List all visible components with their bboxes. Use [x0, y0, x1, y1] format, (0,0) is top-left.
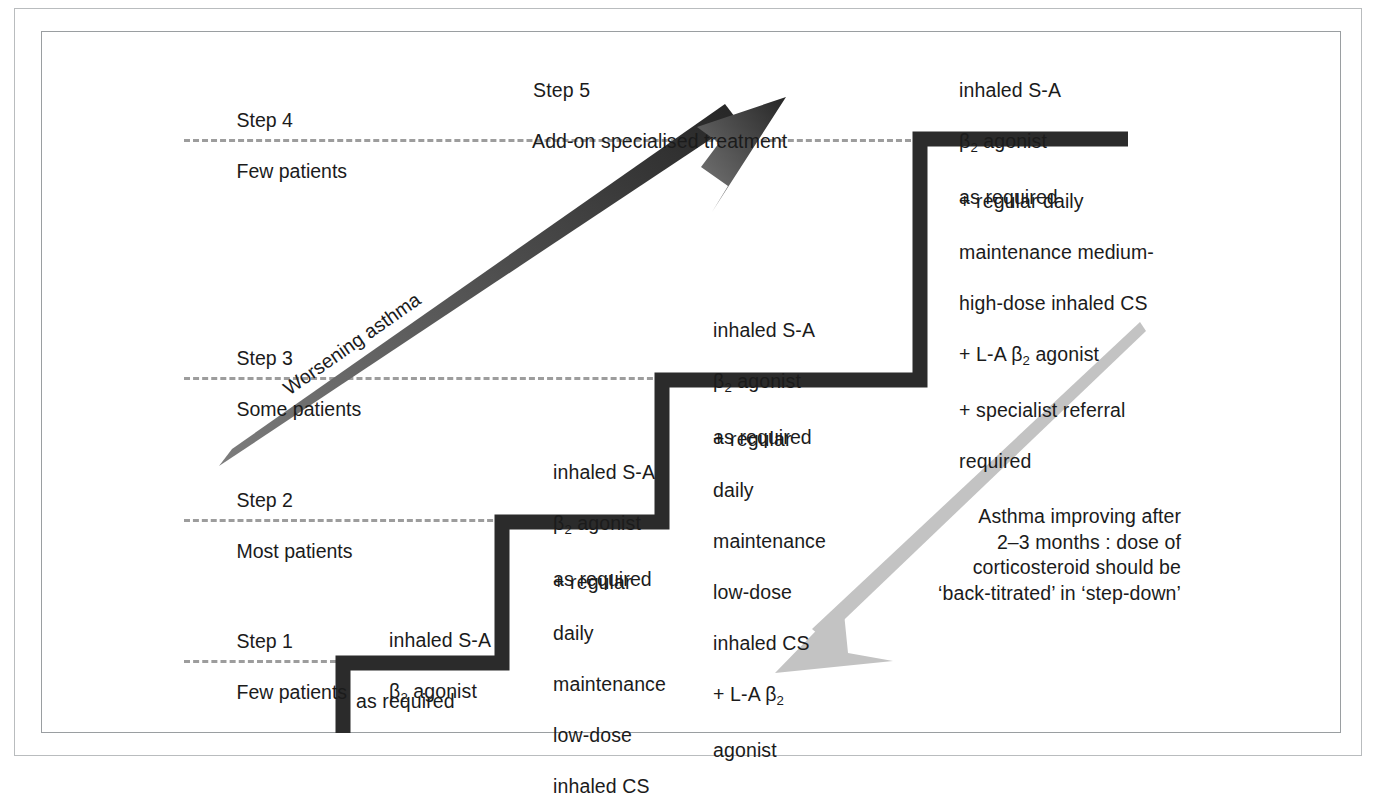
beta-glyph: β [959, 130, 970, 152]
step1-patients: Few patients [237, 681, 348, 703]
step3-addon-line-0: + regular [713, 428, 791, 450]
beta-subscript: 2 [564, 521, 571, 536]
step5-description: Add-on specialised treatment [532, 130, 787, 152]
step3-addon-line-2: maintenance [713, 530, 826, 552]
beta-subscript: 2 [724, 379, 731, 394]
step4-addon-text: + regular daily maintenance medium- high… [926, 163, 1154, 500]
step3-addon-line-1: daily [713, 479, 754, 501]
step4-addon-line-0: + regular daily [959, 190, 1084, 212]
step3-addon-la-agonist: agonist [713, 739, 777, 761]
agonist-word: agonist [572, 512, 641, 534]
beta-glyph: β [1011, 343, 1022, 365]
beta-glyph: β [713, 370, 724, 392]
improving-caption-line-3: ‘back-titrated’ in ‘step-down’ [938, 582, 1181, 604]
step3-patients: Some patients [237, 398, 362, 420]
step2-label: Step 2 Most patients [204, 462, 353, 590]
step2-addon-line-1: daily [553, 622, 594, 644]
step2-patients: Most patients [237, 540, 353, 562]
improving-arrow-caption: Asthma improving after 2–3 months : dose… [836, 504, 1181, 606]
beta-glyph: β [765, 683, 776, 705]
step1-name: Step 1 [237, 630, 293, 652]
step4-reliever-line1: inhaled S-A [959, 79, 1061, 101]
step2-addon-text: + regular daily maintenance low-dose inh… [520, 544, 666, 797]
step2-addon-line-2: maintenance [553, 673, 666, 695]
agonist-word: agonist [732, 370, 801, 392]
improving-caption-line-1: 2–3 months : dose of [997, 531, 1181, 553]
step1-reliever-line1: inhaled S-A [389, 629, 491, 651]
step3-addon-line-3: low-dose [713, 581, 792, 603]
step1-as-required: as required [356, 689, 455, 715]
step4-label: Step 4 Few patients [204, 82, 347, 210]
step2-beta2-agonist: β2 agonist [553, 512, 641, 534]
step2-name: Step 2 [237, 489, 293, 511]
beta-subscript: 2 [1023, 352, 1030, 367]
improving-caption-line-0: Asthma improving after [978, 505, 1181, 527]
step1-label: Step 1 Few patients [204, 603, 347, 731]
beta-subscript: 2 [970, 139, 977, 154]
step4-name: Step 4 [237, 109, 293, 131]
step3-label: Step 3 Some patients [204, 320, 361, 448]
agonist-word: agonist [1030, 343, 1099, 365]
step2-reliever-line1: inhaled S-A [553, 461, 655, 483]
improving-caption-line-2: corticosteroid should be [973, 556, 1181, 578]
step3-addon-la-beta2: + L-A β2 [713, 683, 784, 705]
agonist-word: agonist [978, 130, 1047, 152]
la-prefix: + L-A [959, 343, 1011, 365]
step4-addon-la-beta2: + L-A β2 agonist [959, 343, 1099, 365]
beta-glyph: β [553, 512, 564, 534]
step4-addon-line-1: maintenance medium- [959, 241, 1154, 263]
step5-name: Step 5 [533, 79, 590, 101]
step5-heading: Step 5 Add-on specialised treatment [500, 52, 787, 180]
step4-addon-specialist-2: required [959, 450, 1031, 472]
step2-addon-line-0: + regular [553, 571, 631, 593]
beta-subscript: 2 [777, 692, 784, 707]
step2-addon-line-4: inhaled CS [553, 775, 649, 797]
step4-beta2-agonist: β2 agonist [959, 130, 1047, 152]
step3-addon-line-4: inhaled CS [713, 632, 809, 654]
step3-reliever-line1: inhaled S-A [713, 319, 815, 341]
step4-addon-specialist-1: + specialist referral [959, 399, 1125, 421]
step3-addon-text: + regular daily maintenance low-dose inh… [680, 401, 826, 789]
step4-patients: Few patients [237, 160, 348, 182]
step2-addon-line-3: low-dose [553, 724, 632, 746]
step3-beta2-agonist: β2 agonist [713, 370, 801, 392]
la-prefix: + L-A [713, 683, 765, 705]
step4-addon-line-2: high-dose inhaled CS [959, 292, 1147, 314]
step3-name: Step 3 [237, 347, 293, 369]
step1-reliever-text: inhaled S-A β2 agonist [356, 602, 491, 735]
